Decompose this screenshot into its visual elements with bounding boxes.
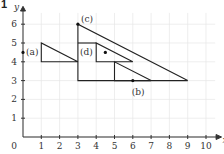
x-tick-label: 5 [112,141,118,151]
x-tick-label: 1 [38,141,44,151]
point-b [131,79,134,82]
x-tick-label: 9 [185,141,191,151]
x-tick-label: 4 [93,141,99,151]
point-d [104,51,107,54]
y-tick-label: 4 [11,57,17,67]
point-a [21,51,24,54]
label-d: (d) [80,47,93,57]
point-c [76,23,79,26]
x-tick-label: 2 [57,141,63,151]
x-tick-label: 7 [148,141,154,151]
x-tick-label: 10 [200,141,212,151]
y-tick-label: 1 [11,113,17,123]
label-a: (a) [26,47,38,57]
y-axis-label: y [13,2,20,12]
y-tick-label: 6 [11,19,17,29]
label-b: (b) [132,87,145,97]
x-tick-label: 3 [75,141,81,151]
origin-label: 0 [11,141,17,151]
label-c: (c) [81,14,93,24]
y-tick-label: 3 [11,76,17,86]
x-tick-label: 8 [167,141,173,151]
coordinate-diagram: 123456789101234560xy(a)(b)(c)(d) [0,0,224,154]
y-tick-label: 5 [11,38,17,48]
y-tick-label: 2 [11,94,17,104]
x-arrow-icon [216,135,221,140]
y-arrow-icon [21,6,26,11]
x-tick-label: 6 [130,141,136,151]
x-axis-label: x [222,135,224,145]
